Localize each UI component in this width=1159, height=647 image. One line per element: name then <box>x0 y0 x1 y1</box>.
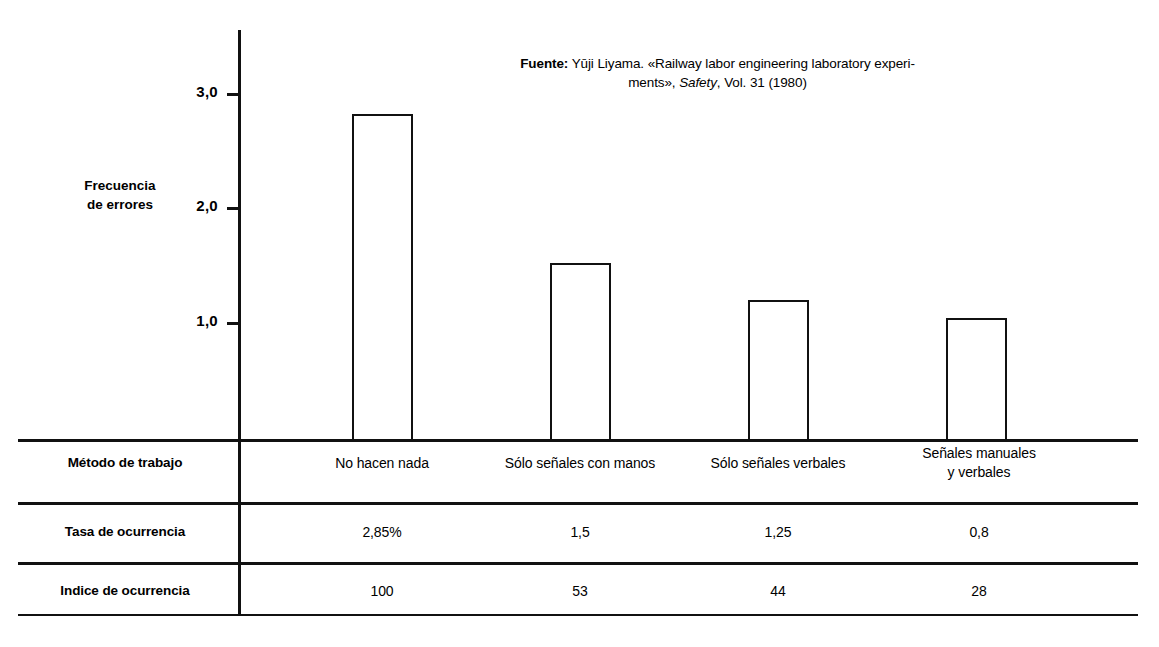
bar-solo-senales-manos <box>550 263 611 442</box>
bar-senales-manuales-verbales <box>946 318 1007 442</box>
table-cell-indice-4: 28 <box>884 582 1074 601</box>
table-rule-bottom <box>18 614 1138 616</box>
y-tick-label-1: 1,0 <box>168 312 218 329</box>
table-row-label-tasa: Tasa de ocurrencia <box>20 524 230 539</box>
plot-area: 3,0 2,0 1,0 <box>0 0 1159 647</box>
table-cell-metodo-3: Sólo señales verbales <box>686 454 870 473</box>
y-tick-label-2: 2,0 <box>168 197 218 214</box>
y-tick-3 <box>227 93 240 96</box>
y-tick-2 <box>227 207 240 210</box>
bar-no-hacen-nada <box>352 114 413 442</box>
y-axis-line <box>238 30 241 442</box>
table-cell-indice-3: 44 <box>686 582 870 601</box>
table-cell-metodo-4-line2: y verbales <box>884 463 1074 482</box>
bar-solo-senales-verbales <box>748 300 809 442</box>
table-rule-1 <box>18 502 1138 505</box>
table-cell-indice-2: 53 <box>488 582 672 601</box>
y-tick-label-3: 3,0 <box>168 83 218 100</box>
table-cell-tasa-3: 1,25 <box>686 523 870 542</box>
table-vertical-divider <box>238 439 241 616</box>
table-cell-metodo-4: Señales manuales y verbales <box>884 444 1074 482</box>
table-cell-tasa-2: 1,5 <box>488 523 672 542</box>
table-cell-tasa-1: 2,85% <box>290 523 474 542</box>
table-cell-metodo-2: Sólo señales con manos <box>488 454 672 473</box>
table-rule-top <box>18 439 1138 442</box>
table-rule-2 <box>18 562 1138 565</box>
table-cell-metodo-4-line1: Señales manuales <box>884 444 1074 463</box>
table-row-label-metodo: Método de trabajo <box>20 455 230 470</box>
table-cell-metodo-1: No hacen nada <box>290 454 474 473</box>
table-cell-tasa-4: 0,8 <box>884 523 1074 542</box>
chart-page: Fuente: Yūji Liyama. «Railway labor engi… <box>0 0 1159 647</box>
y-tick-1 <box>227 322 240 325</box>
table-cell-indice-1: 100 <box>290 582 474 601</box>
table-row-label-indice: Indice de ocurrencia <box>20 583 230 598</box>
